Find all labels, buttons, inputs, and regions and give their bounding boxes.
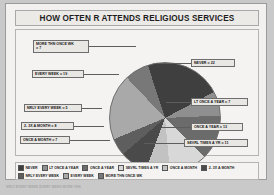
- callout-every-week[interactable]: EVERY WEEK = 19: [32, 70, 84, 78]
- legend-swatch-icon: [82, 165, 88, 171]
- chart-legend: NEVERLT ONCE A YEARONCE A YEARSEVRL TIME…: [15, 162, 259, 180]
- legend-swatch-icon: [98, 173, 104, 179]
- leader-line-nrly-every-week: [82, 108, 102, 109]
- callout-line-1: SEVRL TIMES A YR = 11: [187, 141, 245, 145]
- legend-item[interactable]: 2- 3X A MONTH: [201, 165, 234, 171]
- legend-swatch-icon: [18, 173, 24, 179]
- callout-once-a-year[interactable]: ONCE A YEAR = 13: [191, 123, 243, 131]
- legend-item[interactable]: LT ONCE A YEAR: [42, 165, 79, 171]
- legend-label: NRLY EVERY WEEK: [26, 174, 60, 178]
- leader-line-once-a-year: [162, 127, 191, 128]
- callout-line-1: EVERY WEEK = 19: [35, 72, 81, 76]
- callout-lt-once-a-year[interactable]: LT ONCE A YEAR = 7: [191, 98, 248, 106]
- legend-row-1: NEVERLT ONCE A YEARONCE A YEARSEVRL TIME…: [18, 165, 256, 173]
- legend-label: ONCE A YEAR: [90, 166, 114, 170]
- callout-line-1: NRLY EVERY WEEK = 5: [27, 106, 79, 110]
- leader-line-more-thn-once-wk: [89, 46, 136, 47]
- leader-line-never: [156, 63, 191, 64]
- leader-line-2-3x-a-month: [74, 126, 104, 127]
- legend-label: MORE THN ONCE WK: [105, 174, 142, 178]
- legend-label: 2- 3X A MONTH: [209, 166, 235, 170]
- page-title: HOW OFTEN R ATTENDS RELIGIOUS SERVICES: [40, 14, 235, 23]
- footer-ghost-strip: NRLY EVERY WEEK EVERY WEEK MORE THN: [6, 183, 156, 191]
- callout-line-1: 2- 3X A MONTH = 8: [24, 124, 71, 128]
- legend-swatch-icon: [201, 165, 207, 171]
- legend-item[interactable]: ONCE A MONTH: [162, 165, 197, 171]
- footer-ghost-text: NRLY EVERY WEEK EVERY WEEK MORE THN: [6, 185, 81, 189]
- callout-never[interactable]: NEVER = 22: [191, 59, 235, 67]
- legend-item[interactable]: MORE THN ONCE WK: [98, 173, 142, 179]
- pie-slices[interactable]: [109, 62, 221, 174]
- legend-swatch-icon: [42, 165, 48, 171]
- legend-label: EVERY WEEK: [71, 174, 94, 178]
- callout-sevrl-times-a-yr[interactable]: SEVRL TIMES A YR = 11: [184, 139, 248, 147]
- legend-swatch-icon: [63, 173, 69, 179]
- callout-line-1: NEVER = 22: [194, 61, 232, 65]
- legend-row-2: NRLY EVERY WEEKEVERY WEEKMORE THN ONCE W…: [18, 172, 256, 180]
- legend-swatch-icon: [162, 165, 168, 171]
- callout-line-2: = 7: [36, 46, 86, 50]
- leader-line-every-week: [84, 74, 119, 75]
- plot-area: MORE THN ONCE WK = 7 EVERY WEEK = 19 NRL…: [15, 29, 259, 156]
- legend-label: SEVRL TIMES A YR: [126, 166, 159, 170]
- legend-label: NEVER: [26, 166, 38, 170]
- callout-once-a-month[interactable]: ONCE A MONTH = 7: [20, 136, 70, 144]
- callout-line-1: ONCE A YEAR = 13: [194, 125, 240, 129]
- leader-line-lt-once-a-year: [166, 102, 191, 103]
- legend-item[interactable]: ONCE A YEAR: [82, 165, 114, 171]
- callout-nrly-every-week[interactable]: NRLY EVERY WEEK = 5: [24, 104, 82, 112]
- legend-label: ONCE A MONTH: [170, 166, 197, 170]
- legend-label: LT ONCE A YEAR: [49, 166, 78, 170]
- legend-item[interactable]: SEVRL TIMES A YR: [118, 165, 158, 171]
- legend-swatch-icon: [118, 165, 124, 171]
- leader-line-sevrl-times-a-yr: [144, 143, 184, 144]
- chart-sheet: HOW OFTEN R ATTENDS RELIGIOUS SERVICES M…: [5, 3, 267, 180]
- legend-item[interactable]: NEVER: [18, 165, 38, 171]
- pie-chart[interactable]: [109, 62, 221, 174]
- chart-title-band: HOW OFTEN R ATTENDS RELIGIOUS SERVICES: [15, 10, 259, 26]
- legend-swatch-icon: [18, 165, 24, 171]
- legend-item[interactable]: EVERY WEEK: [63, 173, 94, 179]
- callout-line-1: LT ONCE A YEAR = 7: [194, 100, 245, 104]
- legend-item[interactable]: NRLY EVERY WEEK: [18, 173, 59, 179]
- callout-more-thn-once-wk[interactable]: MORE THN ONCE WK = 7: [33, 40, 89, 53]
- screenshot-root: HOW OFTEN R ATTENDS RELIGIOUS SERVICES M…: [0, 0, 274, 195]
- callout-2-3x-a-month[interactable]: 2- 3X A MONTH = 8: [21, 122, 74, 130]
- leader-line-once-a-month: [70, 140, 110, 141]
- callout-line-1: ONCE A MONTH = 7: [23, 138, 67, 142]
